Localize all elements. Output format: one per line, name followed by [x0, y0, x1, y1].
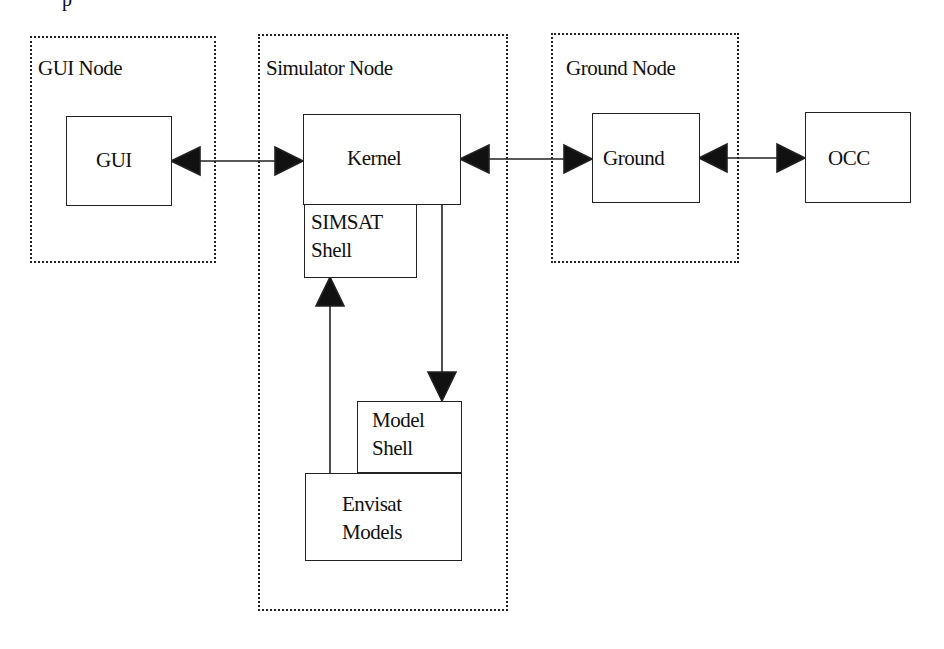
ground-box: Ground: [592, 113, 700, 203]
occ-box-label: OCC: [828, 144, 870, 172]
arrowhead-right-icon: [777, 144, 805, 172]
simsat-shell-box: SIMSAT Shell: [304, 204, 417, 278]
arrowhead-left-icon: [699, 144, 727, 172]
arrowhead-right-icon: [564, 145, 592, 173]
envisat-models-label: Envisat Models: [342, 490, 402, 546]
arrowhead-down-icon: [428, 372, 456, 401]
kernel-box-label: Kernel: [347, 144, 401, 172]
envisat-models-box: Envisat Models: [305, 473, 462, 561]
occ-box: OCC: [805, 112, 911, 203]
model-shell-box: Model Shell: [357, 401, 462, 473]
model-shell-label: Model Shell: [372, 406, 424, 462]
simsat-shell-label: SIMSAT Shell: [311, 208, 383, 264]
kernel-box: Kernel: [303, 114, 461, 205]
arrowhead-left-icon: [460, 145, 489, 173]
gui-box-label: GUI: [96, 146, 132, 174]
arrowhead-left-icon: [171, 147, 200, 175]
arrowhead-up-icon: [316, 277, 344, 306]
arrowhead-right-icon: [275, 147, 303, 175]
connections-layer: [0, 0, 944, 649]
gui-box: GUI: [66, 116, 172, 206]
ground-box-label: Ground: [603, 144, 664, 172]
